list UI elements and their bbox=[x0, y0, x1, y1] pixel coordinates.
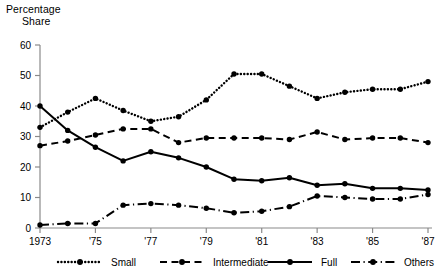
data-point bbox=[287, 137, 292, 142]
y-axis-tick-label: 0 bbox=[25, 223, 31, 234]
legend-marker bbox=[179, 259, 185, 265]
legend-item-others[interactable]: Others bbox=[351, 257, 434, 268]
data-point bbox=[176, 140, 181, 145]
y-axis-tick-label: 30 bbox=[20, 131, 32, 142]
legend-marker bbox=[287, 259, 293, 265]
x-axis-tick-label: '85 bbox=[366, 236, 379, 247]
y-axis-tick-label: 40 bbox=[20, 101, 32, 112]
x-axis-tick-label: '75 bbox=[89, 236, 102, 247]
data-point bbox=[231, 210, 236, 215]
data-point bbox=[425, 192, 430, 197]
data-point bbox=[259, 209, 264, 214]
series-layer bbox=[37, 71, 430, 227]
data-point bbox=[65, 109, 70, 114]
data-point bbox=[204, 205, 209, 210]
data-point bbox=[231, 135, 236, 140]
legend-item-full[interactable]: Full bbox=[268, 257, 337, 268]
data-point bbox=[148, 126, 153, 131]
data-point bbox=[287, 204, 292, 209]
series-others bbox=[37, 192, 430, 228]
data-point bbox=[148, 119, 153, 124]
x-axis: 1973'75'77'79'81'83'85'87 bbox=[29, 228, 435, 247]
data-point bbox=[176, 202, 181, 207]
x-axis-tick-label: '81 bbox=[255, 236, 268, 247]
data-point bbox=[314, 129, 319, 134]
series-line bbox=[40, 194, 428, 225]
data-point bbox=[93, 221, 98, 226]
data-point bbox=[259, 178, 264, 183]
data-point bbox=[342, 195, 347, 200]
data-point bbox=[314, 183, 319, 188]
data-point bbox=[314, 96, 319, 101]
data-point bbox=[398, 186, 403, 191]
data-point bbox=[370, 196, 375, 201]
data-point bbox=[370, 135, 375, 140]
data-point bbox=[120, 158, 125, 163]
series-line bbox=[40, 74, 428, 127]
legend-item-small[interactable]: Small bbox=[58, 257, 136, 268]
data-point bbox=[148, 201, 153, 206]
y-axis-tick-label: 10 bbox=[20, 192, 32, 203]
legend-label: Others bbox=[404, 257, 434, 268]
data-point bbox=[65, 138, 70, 143]
series-full bbox=[37, 103, 430, 192]
data-point bbox=[231, 177, 236, 182]
data-point bbox=[65, 221, 70, 226]
data-point bbox=[37, 222, 42, 227]
legend-label: Small bbox=[111, 257, 136, 268]
x-axis-tick-label: '83 bbox=[311, 236, 324, 247]
data-point bbox=[176, 155, 181, 160]
data-point bbox=[65, 128, 70, 133]
series-small bbox=[37, 71, 430, 130]
data-point bbox=[93, 144, 98, 149]
data-point bbox=[120, 126, 125, 131]
x-axis-tick-label: '77 bbox=[144, 236, 157, 247]
data-point bbox=[148, 149, 153, 154]
data-point bbox=[425, 79, 430, 84]
data-point bbox=[425, 140, 430, 145]
data-point bbox=[93, 132, 98, 137]
data-point bbox=[37, 143, 42, 148]
data-point bbox=[342, 137, 347, 142]
legend-label: Intermediate bbox=[213, 257, 269, 268]
legend-marker bbox=[77, 259, 83, 265]
data-point bbox=[398, 135, 403, 140]
data-point bbox=[37, 103, 42, 108]
data-point bbox=[204, 135, 209, 140]
legend-marker bbox=[370, 259, 376, 265]
data-point bbox=[342, 90, 347, 95]
data-point bbox=[204, 164, 209, 169]
data-point bbox=[120, 202, 125, 207]
y-axis: 0102030405060 bbox=[20, 40, 40, 234]
x-axis-tick-label: '87 bbox=[421, 236, 434, 247]
data-point bbox=[120, 108, 125, 113]
data-point bbox=[93, 96, 98, 101]
data-point bbox=[398, 87, 403, 92]
x-axis-tick-label: 1973 bbox=[29, 236, 52, 247]
chart-legend: SmallIntermediateFullOthers bbox=[58, 257, 434, 268]
legend-item-intermediate[interactable]: Intermediate bbox=[160, 257, 269, 268]
data-point bbox=[314, 193, 319, 198]
chart-root: Percentage Share 0102030405060 1973'75'7… bbox=[0, 0, 441, 280]
y-axis-tick-label: 20 bbox=[20, 162, 32, 173]
data-point bbox=[287, 83, 292, 88]
x-axis-tick-label: '79 bbox=[200, 236, 213, 247]
data-point bbox=[287, 175, 292, 180]
data-point bbox=[204, 97, 209, 102]
data-point bbox=[176, 114, 181, 119]
data-point bbox=[370, 186, 375, 191]
y-axis-tick-label: 60 bbox=[20, 40, 32, 51]
y-axis-tick-label: 50 bbox=[20, 70, 32, 81]
data-point bbox=[231, 71, 236, 76]
line-chart-svg: 0102030405060 1973'75'77'79'81'83'85'87 … bbox=[0, 0, 441, 280]
data-point bbox=[342, 181, 347, 186]
data-point bbox=[37, 125, 42, 130]
data-point bbox=[259, 135, 264, 140]
legend-label: Full bbox=[321, 257, 337, 268]
data-point bbox=[259, 71, 264, 76]
data-point bbox=[398, 196, 403, 201]
data-point bbox=[370, 87, 375, 92]
